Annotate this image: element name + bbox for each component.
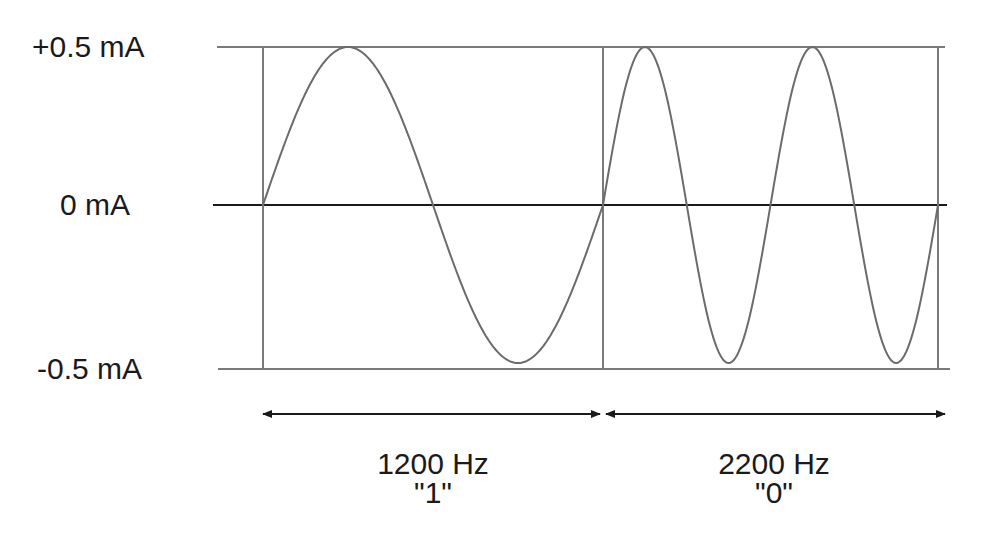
frequency-label-1200hz: 1200 Hz: [313, 449, 553, 479]
bit-label-1: "1": [313, 478, 553, 508]
bit-label-0: "0": [654, 478, 894, 508]
frequency-label-2200hz: 2200 Hz: [654, 449, 894, 479]
